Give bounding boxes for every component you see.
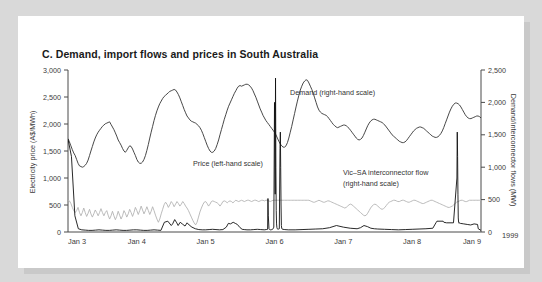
annotation-flow-line2: (right-hand scale) — [343, 179, 399, 188]
x-tick-label: Jan 5 — [197, 237, 215, 246]
annotation-demand: Demand (right-hand scale) — [290, 88, 375, 97]
annotation-price: Price (left-hand scale) — [193, 159, 263, 168]
left-tick-label: 3,000 — [43, 66, 61, 75]
right-tick-label: 2,500 — [488, 66, 506, 75]
series-interconnector-flow — [68, 200, 481, 225]
x-tick-label: Jan 8 — [403, 237, 421, 246]
left-tick-label: 500 — [49, 201, 61, 210]
annotation-flow-line1: Vic–SA interconnector flow — [343, 168, 429, 177]
left-tick-label: 1,000 — [43, 174, 61, 183]
x-tick-label: Jan 7 — [334, 237, 352, 246]
x-tick-label: Jan 9 — [463, 237, 481, 246]
x-tick-label: Jan 3 — [68, 237, 86, 246]
right-axis-title: Demand/interconnector flows (MW) — [509, 94, 518, 207]
left-tick-label: 2,500 — [43, 93, 61, 102]
series-price — [68, 78, 481, 230]
series-layer — [68, 78, 481, 230]
year-label: 1999 — [502, 231, 518, 240]
left-tick-label: 0 — [57, 228, 61, 237]
right-tick-label: 0 — [488, 228, 492, 237]
chart-svg: 05001,0001,5002,0002,5003,00005001,0001,… — [0, 0, 542, 282]
right-tick-label: 1,500 — [488, 130, 506, 139]
x-tick-label: Jan 4 — [128, 237, 146, 246]
left-tick-label: 1,500 — [43, 147, 61, 156]
figure-frame: C. Demand, import flows and prices in So… — [0, 0, 542, 282]
left-tick-label: 2,000 — [43, 120, 61, 129]
right-tick-label: 500 — [488, 195, 500, 204]
x-tick-label: Jan 6 — [265, 237, 283, 246]
right-tick-label: 1,000 — [488, 163, 506, 172]
left-axis-title: Electricity price (A$/MWh) — [28, 111, 37, 194]
right-tick-label: 2,000 — [488, 98, 506, 107]
